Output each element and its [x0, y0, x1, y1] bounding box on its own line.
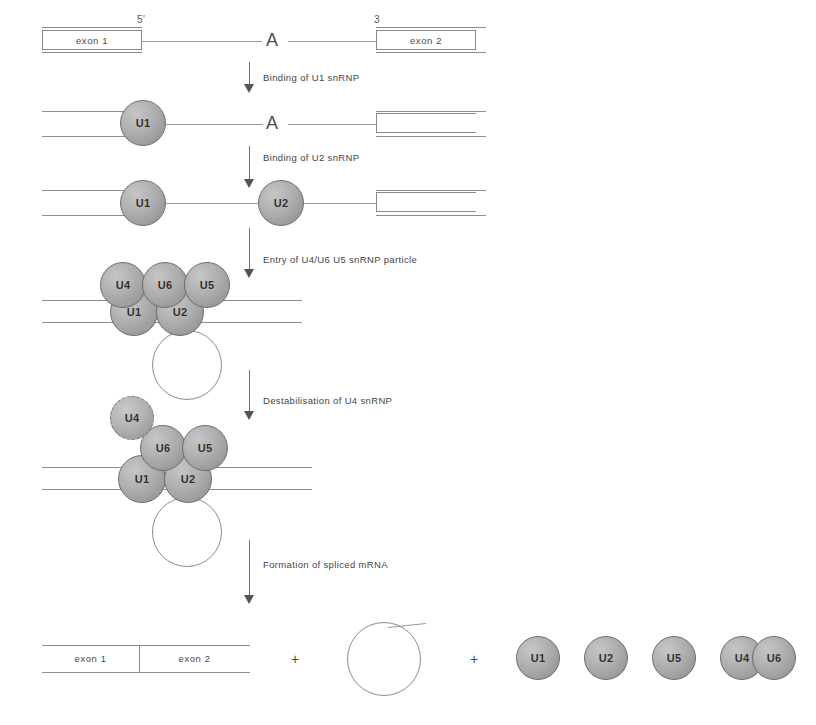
snrnp-u1: U1	[120, 100, 166, 146]
snrnp-u2: U2	[258, 180, 304, 226]
plus-sign-2: +	[470, 651, 478, 667]
mrna-line-bottom	[42, 672, 250, 673]
snrnp-u1-label: U1	[135, 473, 150, 485]
step-label-destabilisation-u4: Destabilisation of U4 snRNP	[263, 395, 392, 406]
five-prime-label: 5'	[137, 14, 145, 25]
snrnp-u2-released: U2	[584, 636, 628, 680]
snrnp-u6-label: U6	[158, 279, 173, 291]
strand-line-top-right	[376, 27, 486, 28]
spliced-exon1-label: exon 1	[74, 653, 106, 664]
intron-line-left	[142, 41, 262, 42]
arrow-shaft	[249, 146, 250, 180]
plus-sign-1: +	[291, 651, 299, 667]
strand-line-top-right	[376, 190, 486, 191]
arrow-shaft	[249, 228, 250, 270]
step-label-binding-u2: Binding of U2 snRNP	[263, 152, 359, 163]
arrow-shaft	[249, 370, 250, 412]
snrnp-u6-label: U6	[156, 442, 171, 454]
intron-line-left	[165, 124, 263, 125]
snrnp-u6-label: U6	[767, 652, 782, 664]
exon2-box	[376, 113, 476, 133]
snrnp-u1: U1	[120, 180, 166, 226]
strand-line-bottom-right	[376, 136, 486, 137]
snrnp-u1-released: U1	[516, 636, 560, 680]
snrnp-u5-released: U5	[652, 636, 696, 680]
splicing-pathway-diagram: exon 1 5' A exon 2 3 Binding of U1 snRNP…	[0, 0, 816, 725]
snrnp-u2-label: U2	[599, 652, 614, 664]
arrow-head	[244, 179, 254, 188]
exon1-label: exon 1	[76, 35, 108, 46]
strand-line-bottom-right	[376, 215, 486, 216]
snrnp-u5: U5	[184, 262, 230, 308]
snrnp-u6-released: U6	[752, 636, 796, 680]
snrnp-u1-label: U1	[136, 117, 151, 129]
snrnp-u5-label: U5	[198, 442, 213, 454]
spliced-exon1-cell: exon 1	[42, 645, 139, 672]
strand-line-top-left	[42, 27, 142, 28]
exon1-box: exon 1	[42, 30, 142, 50]
intron-line-right	[303, 203, 376, 204]
snrnp-u4-label: U4	[735, 652, 750, 664]
snrnp-u4: U4	[100, 262, 146, 308]
three-prime-label: 3	[374, 14, 380, 25]
intron-line-middle	[165, 203, 260, 204]
intron-line-right	[288, 41, 376, 42]
snrnp-u2-label: U2	[173, 306, 188, 318]
snrnp-u2-label: U2	[181, 473, 196, 485]
arrow-head	[244, 411, 254, 420]
arrow-shaft	[249, 540, 250, 596]
arrow-head	[244, 269, 254, 278]
lariat-loop	[152, 497, 222, 567]
exon2-label: exon 2	[410, 35, 442, 46]
lariat-circle	[347, 622, 421, 696]
lariat-loop	[152, 330, 222, 400]
snrnp-u4-label: U4	[116, 279, 131, 291]
branch-point-a: A	[266, 30, 278, 51]
branch-point-a: A	[266, 113, 278, 134]
arrow-head	[244, 595, 254, 604]
snrnp-u1-label: U1	[531, 652, 546, 664]
step-label-formation-spliced-mrna: Formation of spliced mRNA	[263, 559, 388, 570]
arrow-shaft	[249, 62, 250, 85]
snrnp-u5-label: U5	[667, 652, 682, 664]
strand-line-bottom-right	[376, 52, 486, 53]
strand-line-top-right	[376, 111, 486, 112]
arrow-head	[244, 84, 254, 93]
spliced-exon2-label: exon 2	[178, 653, 210, 664]
exon2-box	[376, 192, 476, 212]
snrnp-u1-label: U1	[127, 306, 142, 318]
intron-line-right	[288, 124, 376, 125]
snrnp-u4-label: U4	[125, 412, 140, 424]
snrnp-u5-label: U5	[200, 279, 215, 291]
step-label-binding-u1: Binding of U1 snRNP	[263, 72, 359, 83]
snrnp-u6: U6	[142, 262, 188, 308]
strand-line-bottom-left	[42, 52, 142, 53]
spliced-exon2-cell: exon 2	[139, 645, 250, 672]
snrnp-u1-label: U1	[136, 197, 151, 209]
step-label-entry-u4-u6-u5: Entry of U4/U6 U5 snRNP particle	[263, 254, 417, 265]
exon2-box: exon 2	[376, 30, 476, 50]
snrnp-u2-label: U2	[274, 197, 289, 209]
snrnp-u5: U5	[182, 425, 228, 471]
snrnp-u4-released: U4	[110, 396, 154, 440]
